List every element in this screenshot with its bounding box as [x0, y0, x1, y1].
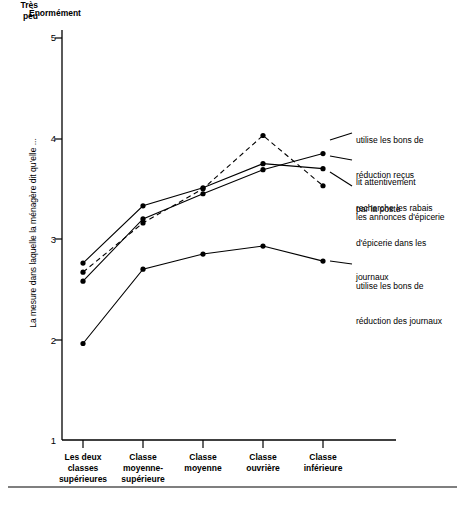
series-4: [80, 243, 325, 346]
data-point: [320, 259, 325, 264]
series-line-2: [83, 164, 323, 263]
legend-leader-2: [330, 156, 352, 160]
legend-3-line1: recherche les rabais: [356, 203, 433, 215]
data-point: [260, 133, 265, 138]
data-point: [80, 270, 85, 275]
legend-leader-4: [330, 261, 352, 264]
x-category-label-5: Classe inférieure: [277, 452, 369, 474]
data-point: [260, 167, 265, 172]
data-point: [80, 261, 85, 266]
data-point: [200, 251, 205, 256]
data-point: [140, 203, 145, 208]
series-layer: [80, 133, 325, 346]
data-point: [200, 185, 205, 190]
x-category-5-line1: Classe: [277, 452, 369, 463]
data-point: [140, 267, 145, 272]
series-2: [80, 161, 325, 266]
series-line-3: [83, 154, 323, 282]
series-line-4: [83, 246, 323, 343]
x-category-2-line3: supérieure: [97, 474, 189, 485]
data-point: [260, 243, 265, 248]
data-point: [80, 279, 85, 284]
data-point: [80, 341, 85, 346]
chart-figure: Énormément Très peu La mesure dans laque…: [0, 0, 465, 505]
legend-4-line2: réduction des journaux: [356, 316, 442, 328]
legend-item-newspaper-coupons[interactable]: utilise les bons de réduction des journa…: [356, 258, 442, 350]
data-point: [260, 161, 265, 166]
data-point: [320, 166, 325, 171]
legend-leader-1: [330, 133, 352, 140]
data-point: [200, 191, 205, 196]
legend-1-line1: utilise les bons de: [356, 135, 424, 147]
data-point: [140, 216, 145, 221]
x-category-5-line2: inférieure: [277, 463, 369, 474]
data-point: [320, 183, 325, 188]
legend-3-line2: d'épicerie dans les: [356, 238, 433, 250]
data-point: [320, 151, 325, 156]
series-3: [80, 151, 325, 284]
legend-4-line1: utilise les bons de: [356, 281, 442, 293]
legend-leader-3: [330, 172, 352, 186]
